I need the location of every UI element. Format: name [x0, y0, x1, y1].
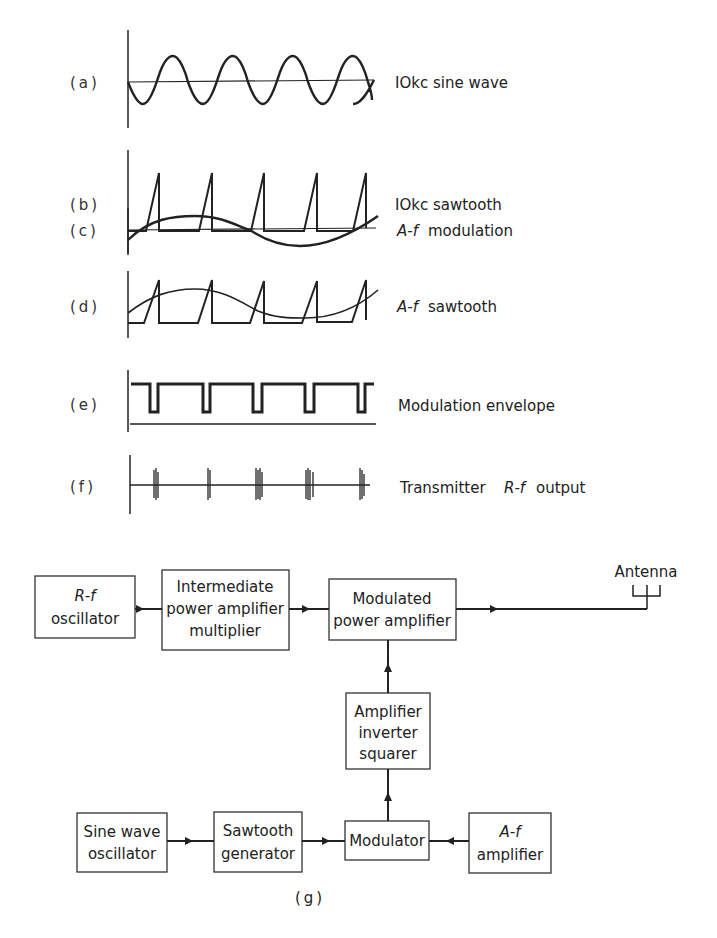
- sawtooth-wave-b: [128, 173, 366, 231]
- block-diagram: Antenna R-f oscillator Intermediate powe…: [35, 563, 678, 907]
- block-intermediate-pa: Intermediate power amplifier multiplier: [162, 570, 289, 650]
- af-amplifier-line2: amplifier: [477, 846, 544, 864]
- block-sawtooth-generator: Sawtooth generator: [214, 812, 302, 872]
- waveform-a-label: IOkc sine wave: [395, 74, 508, 92]
- block-amplifier-inverter-squarer: Amplifier inverter squarer: [346, 693, 430, 769]
- antenna-icon: [633, 585, 660, 609]
- ais-line2: inverter: [358, 724, 418, 742]
- block-modulated-pa: Modulated power amplifier: [329, 579, 456, 640]
- block-sine-wave-oscillator: Sine wave oscillator: [77, 813, 167, 872]
- envelope-wave-e: [131, 384, 374, 412]
- sine-osc-line1: Sine wave: [84, 823, 161, 841]
- sine-osc-line2: oscillator: [88, 845, 157, 863]
- arrowhead-icon: [446, 837, 454, 845]
- block-modulator: Modulator: [345, 821, 429, 860]
- mpa-line2: power amplifier: [333, 612, 451, 630]
- waveform-b-label: IOkc sawtooth: [395, 196, 502, 214]
- ipa-line2: power amplifier: [166, 600, 284, 618]
- block-af-amplifier: A-f amplifier: [469, 813, 551, 873]
- rf-oscillator-line2: oscillator: [51, 610, 120, 628]
- waveform-e: (e) Modulation envelope: [70, 370, 555, 432]
- ipa-line1: Intermediate: [177, 578, 274, 596]
- sawtooth-gen-line2: generator: [221, 845, 296, 863]
- transmitter-figure: (a) IOkc sine wave (b) IOkc sawtooth (c)…: [0, 0, 717, 938]
- arrowhead-icon: [136, 605, 144, 613]
- waveform-f-label-rest: output: [536, 479, 586, 497]
- rf-oscillator-line1: R-f: [74, 587, 98, 605]
- antenna-label: Antenna: [614, 563, 677, 581]
- waveform-f: (f) Transmitter R-f output: [70, 455, 586, 514]
- waveform-d: (d) A-f sawtooth: [70, 271, 497, 338]
- waveform-c-label: modulation: [428, 222, 513, 240]
- mpa-line1: Modulated: [352, 590, 431, 608]
- modulator-line1: Modulator: [349, 832, 426, 850]
- af-sawtooth-d: [128, 280, 366, 323]
- waveform-e-tag: (e): [70, 396, 100, 414]
- waveform-a: (a) IOkc sine wave: [70, 30, 508, 128]
- ais-line1: Amplifier: [354, 703, 422, 721]
- sine-wave-a: [128, 56, 374, 104]
- arrowhead-icon: [322, 837, 330, 845]
- sawtooth-gen-line1: Sawtooth: [223, 822, 294, 840]
- arrowhead-icon: [384, 792, 392, 801]
- ipa-line3: multiplier: [189, 622, 261, 640]
- waveform-b-tag: (b): [70, 196, 100, 214]
- waveform-d-label-italic: A-f: [396, 298, 421, 316]
- waveform-d-label: sawtooth: [428, 298, 497, 316]
- arrowhead-icon: [384, 663, 392, 672]
- waveform-c-label-italic: A-f: [396, 222, 421, 240]
- ais-line3: squarer: [359, 745, 417, 763]
- af-amplifier-line1: A-f: [499, 823, 524, 841]
- arrowhead-icon: [490, 605, 498, 613]
- figure-caption-g: (g): [295, 889, 325, 907]
- waveform-f-label: Transmitter: [399, 479, 486, 497]
- waveform-c-tag: (c): [70, 222, 99, 240]
- waveform-f-label-italic: R-f: [504, 479, 528, 497]
- arrowhead-icon: [185, 837, 193, 845]
- waveform-e-label: Modulation envelope: [398, 397, 555, 415]
- waveform-d-tag: (d): [70, 298, 100, 316]
- arrowhead-icon: [302, 605, 310, 613]
- waveform-a-tag: (a): [70, 74, 100, 92]
- block-rf-oscillator: R-f oscillator: [35, 576, 135, 638]
- waveform-f-tag: (f): [70, 478, 96, 496]
- rf-bursts-f: [154, 468, 364, 500]
